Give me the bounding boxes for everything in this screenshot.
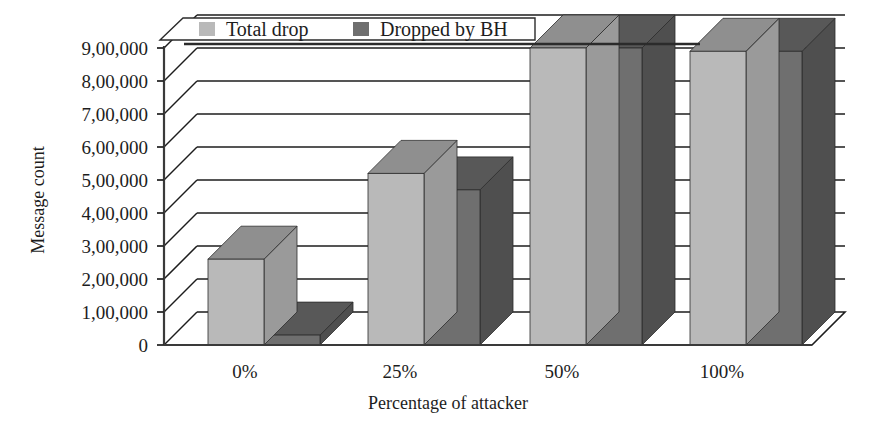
gridline-depth bbox=[164, 147, 197, 180]
y-tick-label: 7,00,000 bbox=[82, 104, 149, 125]
gridline-depth bbox=[164, 81, 197, 114]
x-tick-label-0: 0% bbox=[232, 361, 258, 382]
y-tick-label: 5,00,000 bbox=[82, 170, 149, 191]
gridline-depth bbox=[164, 48, 197, 81]
bar-side-face bbox=[586, 15, 619, 345]
gridline-depth bbox=[164, 279, 197, 312]
bar-side-face bbox=[802, 18, 835, 345]
y-tick-label: 4,00,000 bbox=[82, 203, 149, 224]
chart-container: 9,00,000 8,00,000 7,00,000 6,00,000 5,00… bbox=[0, 0, 886, 428]
y-tick-label: 8,00,000 bbox=[82, 71, 149, 92]
gridline-depth bbox=[164, 213, 197, 246]
legend-label-total-drop: Total drop bbox=[226, 18, 308, 41]
legend-swatch-total-drop bbox=[199, 22, 215, 36]
y-tick-label: 1,00,000 bbox=[82, 302, 149, 323]
bar-total-drop bbox=[530, 15, 619, 345]
bar-front-face bbox=[368, 173, 424, 345]
x-axis-title: Percentage of attacker bbox=[368, 393, 528, 413]
x-tick-label-2: 50% bbox=[545, 361, 580, 382]
x-tick-label-3: 100% bbox=[700, 361, 745, 382]
gridline-depth bbox=[164, 114, 197, 147]
y-axis-title: Message count bbox=[28, 146, 48, 253]
bar-total-drop bbox=[690, 18, 779, 345]
gridline-depth bbox=[164, 180, 197, 213]
y-tick-label: 2,00,000 bbox=[82, 269, 149, 290]
gridline-row bbox=[164, 312, 197, 345]
y-tick-label: 3,00,000 bbox=[82, 236, 149, 257]
bar-front-face bbox=[690, 51, 746, 345]
bar-side-face bbox=[424, 140, 457, 345]
bar-side-face bbox=[642, 15, 675, 345]
x-axis-category-labels: 0% 25% 50% 100% bbox=[232, 361, 744, 382]
bar-total-drop bbox=[368, 140, 457, 345]
y-axis-tick-labels: 9,00,000 8,00,000 7,00,000 6,00,000 5,00… bbox=[82, 38, 149, 356]
bar-front-face bbox=[530, 48, 586, 345]
x-tick-label-1: 25% bbox=[383, 361, 418, 382]
y-tick-label: 0 bbox=[139, 335, 149, 356]
bar-front-face bbox=[208, 259, 264, 345]
bar-chart-3d: 9,00,000 8,00,000 7,00,000 6,00,000 5,00… bbox=[0, 0, 886, 428]
y-tick-label: 6,00,000 bbox=[82, 137, 149, 158]
legend-label-dropped-by-bh: Dropped by BH bbox=[380, 18, 508, 41]
legend-swatch-dropped-by-bh bbox=[353, 22, 369, 36]
y-tick-label: 9,00,000 bbox=[82, 38, 149, 59]
bar-side-face bbox=[746, 18, 779, 345]
gridline-depth bbox=[164, 246, 197, 279]
gridline-depth bbox=[164, 312, 197, 345]
